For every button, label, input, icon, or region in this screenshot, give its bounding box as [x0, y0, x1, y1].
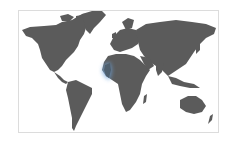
southeast-asia[interactable] [168, 76, 200, 88]
europe[interactable] [110, 28, 140, 52]
madagascar[interactable] [143, 94, 147, 104]
central-america[interactable] [54, 72, 68, 84]
south-america[interactable] [66, 80, 92, 131]
greenland[interactable] [82, 11, 106, 34]
japan[interactable] [196, 42, 200, 54]
new-zealand[interactable] [208, 114, 213, 124]
australia[interactable] [180, 96, 206, 114]
world-map[interactable] [0, 0, 235, 145]
